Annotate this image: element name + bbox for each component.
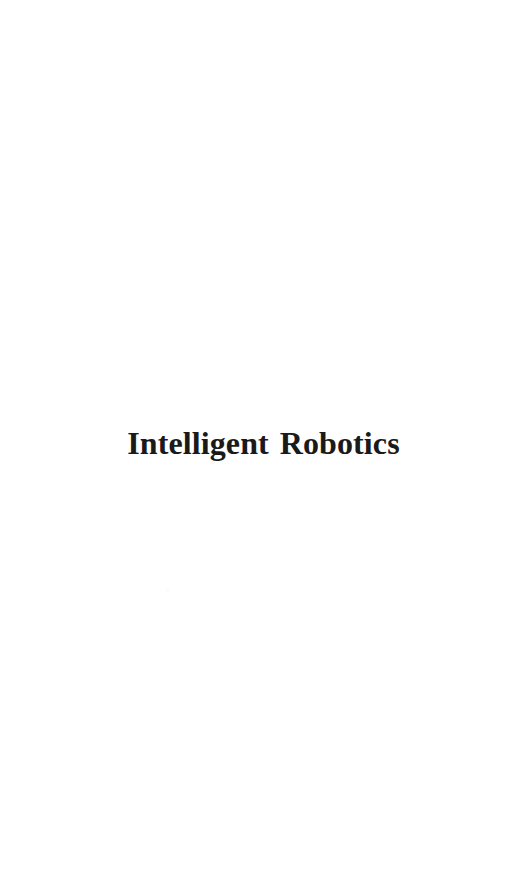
title-word-intelligent: Intelligent: [127, 425, 269, 461]
half-title-block: IntelligentRobotics: [0, 425, 527, 461]
title-word-robotics: Robotics: [280, 425, 400, 461]
page-lower-blank-area: [0, 461, 527, 869]
scanned-page: IntelligentRobotics: [0, 0, 527, 869]
page-title: IntelligentRobotics: [127, 425, 399, 461]
scan-artifact-speck: [166, 588, 169, 592]
page-upper-blank-area: [0, 0, 527, 432]
